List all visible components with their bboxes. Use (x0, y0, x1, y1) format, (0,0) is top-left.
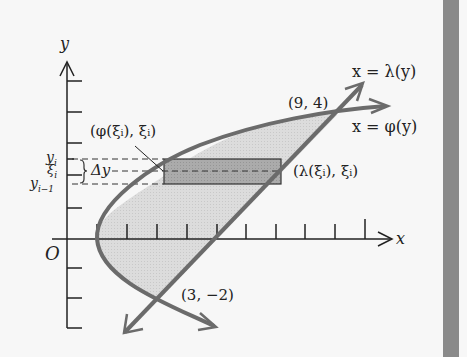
left-point-label: (φ(ξᵢ), ξᵢ) (90, 124, 156, 139)
phi-label-text: x = φ(y) (352, 117, 417, 136)
leader-line (135, 146, 163, 171)
shaded-region (97, 114, 337, 301)
delta-brace (80, 160, 87, 183)
lambda-label: x = λ(y) (352, 64, 416, 80)
y-axis-label: y (60, 36, 69, 52)
y-i-minus-1-label: yi−1 (30, 176, 54, 194)
diagram-canvas: y x O x = λ(y) x = φ(y) (9, 4) (3, −2) (… (0, 0, 467, 357)
side-bar (443, 0, 459, 357)
point-label-9-4: (9, 4) (288, 96, 328, 111)
y-im1-main: y (30, 175, 38, 191)
xi-i-sub: i (54, 170, 57, 180)
point-label-3-neg2: (3, −2) (181, 288, 234, 303)
lambda-label-text: x = λ(y) (352, 62, 416, 81)
y-axis (60, 62, 82, 328)
origin-label: O (45, 245, 60, 263)
right-point-label: (λ(ξᵢ), ξᵢ) (293, 164, 358, 179)
y-im1-sub: i−1 (38, 184, 54, 194)
x-axis-label: x (396, 231, 405, 247)
phi-label: x = φ(y) (352, 119, 417, 135)
delta-y-label: Δy (91, 163, 110, 178)
